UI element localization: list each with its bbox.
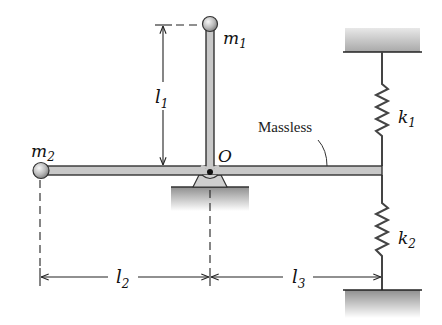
mechanical-system-diagram: m1 m2 l1 O Massless k1 k2 l2 l3 bbox=[0, 0, 442, 325]
label-l3: l3 bbox=[292, 266, 306, 291]
dimension-l2-l3 bbox=[40, 268, 381, 286]
massless-leader bbox=[318, 140, 327, 166]
spring-k2 bbox=[376, 175, 388, 290]
label-k1: k1 bbox=[398, 107, 416, 130]
mass-m1 bbox=[203, 17, 218, 32]
label-m1: m1 bbox=[223, 28, 247, 51]
label-m2: m2 bbox=[31, 141, 55, 164]
pivot-pin-icon bbox=[207, 169, 213, 175]
upper-wall bbox=[343, 28, 422, 52]
label-massless: Massless bbox=[258, 119, 312, 135]
dimension-l1 bbox=[155, 25, 199, 165]
spring-k1 bbox=[376, 52, 388, 166]
label-k2: k2 bbox=[398, 228, 416, 251]
label-l2: l2 bbox=[116, 266, 129, 291]
label-l1: l1 bbox=[155, 86, 168, 111]
lower-wall bbox=[343, 290, 422, 318]
mass-m2 bbox=[33, 163, 49, 179]
label-pivot-o: O bbox=[218, 146, 232, 166]
vertical-arm bbox=[206, 28, 214, 168]
